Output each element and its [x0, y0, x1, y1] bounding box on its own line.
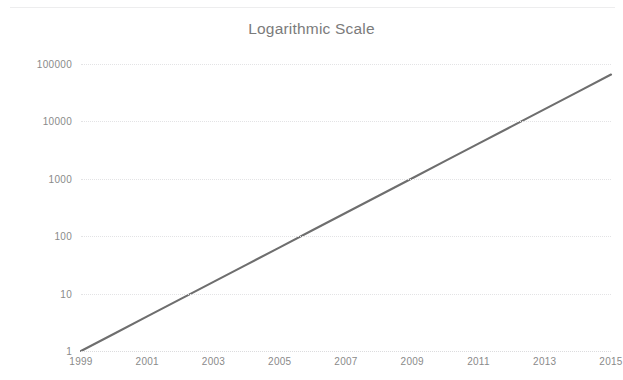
- y-axis-tick-label: 10: [60, 288, 72, 299]
- x-axis-tick-label: 2001: [136, 356, 159, 367]
- y-axis-tick-label: 100: [54, 231, 72, 242]
- x-axis-tick-label: 2003: [202, 356, 225, 367]
- data-series-line: [81, 64, 611, 351]
- x-axis-tick-label: 2015: [599, 356, 622, 367]
- gridline-y-1: [81, 351, 611, 353]
- y-axis-tick-label: 1000: [49, 173, 72, 184]
- plot-area: [81, 64, 611, 351]
- y-axis: 110100100010000100000: [0, 64, 72, 351]
- gridline-y-100000: [81, 64, 611, 66]
- series-1-polyline: [81, 75, 611, 351]
- gridline-y-100: [81, 236, 611, 238]
- gridline-y-1000: [81, 179, 611, 181]
- page-rule: [10, 7, 615, 8]
- x-axis-tick-label: 2005: [268, 356, 291, 367]
- x-axis: 199920012003200520072009201120132015: [81, 356, 611, 372]
- x-axis-tick-label: 2013: [533, 356, 556, 367]
- y-axis-tick-label: 1: [66, 346, 72, 357]
- x-axis-tick-label: 2007: [334, 356, 357, 367]
- x-axis-tick-label: 2011: [467, 356, 490, 367]
- y-axis-tick-label: 10000: [43, 116, 72, 127]
- chart-title: Logarithmic Scale: [0, 20, 623, 38]
- x-axis-tick-label: 2009: [401, 356, 424, 367]
- chart-container: Logarithmic Scale 110100100010000100000 …: [0, 0, 623, 380]
- y-axis-tick-label: 100000: [37, 59, 72, 70]
- gridline-y-10000: [81, 121, 611, 123]
- x-axis-tick-label: 1999: [69, 356, 92, 367]
- gridline-y-10: [81, 294, 611, 296]
